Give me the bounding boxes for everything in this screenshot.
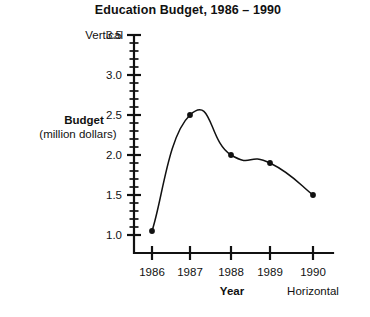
chart-title: Education Budget, 1986 – 1990 [95, 3, 281, 17]
horizontal-axis-annotation: Horizontal [287, 285, 339, 297]
y-tick-label: 2.5 [106, 109, 122, 121]
data-point-marker [187, 112, 193, 118]
chart-container: Education Budget, 1986 – 1990 1.01.52.02… [0, 0, 370, 317]
x-tick-label: 1987 [177, 266, 203, 278]
y-tick-label: 1.5 [106, 189, 122, 201]
y-tick-label: 3.0 [106, 69, 122, 81]
x-tick-label: 1990 [300, 266, 326, 278]
data-point-marker [149, 228, 155, 234]
y-axis-title: Budget [64, 114, 104, 126]
y-axis-units-label: (million dollars) [39, 128, 116, 140]
data-point-marker [267, 160, 273, 166]
data-point-marker [228, 152, 234, 158]
x-tick-label: 1986 [139, 266, 165, 278]
x-axis-title: Year [220, 285, 245, 297]
education-budget-line-chart: Education Budget, 1986 – 1990 1.01.52.02… [0, 0, 370, 317]
x-tick-label: 1989 [257, 266, 283, 278]
x-tick-label: 1988 [218, 266, 244, 278]
vertical-axis-annotation: Vertical [85, 29, 123, 41]
data-point-marker [310, 192, 316, 198]
y-tick-label: 2.0 [106, 149, 122, 161]
y-tick-label: 1.0 [106, 229, 122, 241]
